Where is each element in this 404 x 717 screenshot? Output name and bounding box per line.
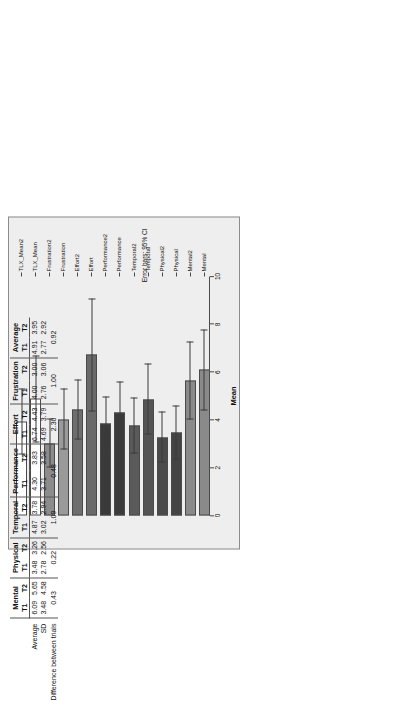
category-label-wrapper: Physical2 — [157, 213, 168, 271]
value-sd-t1: 3.02 — [39, 517, 48, 537]
category-tick — [35, 272, 36, 276]
category-label: Physical2 — [157, 213, 168, 271]
value-tick: 2 — [210, 465, 222, 469]
category-label-wrapper: Performance2 — [100, 213, 111, 271]
category-label: Performance2 — [100, 213, 111, 271]
subheader-t1: T1 — [20, 470, 30, 496]
tick-label: 2 — [214, 465, 222, 469]
bar-row — [114, 276, 125, 515]
value-average-t2: 3.78 — [30, 497, 40, 517]
value-tick: 8 — [210, 322, 222, 326]
category-tick — [105, 272, 106, 276]
category-label-wrapper: Frustration — [58, 213, 69, 271]
category-label-wrapper: Performance — [114, 213, 125, 271]
value-sd-t2: 2.94 — [39, 497, 48, 517]
group-header-average: Average — [10, 317, 20, 357]
category-label-wrapper: TLX_Mean — [30, 213, 41, 271]
value-sd-t1: 2.77 — [39, 337, 48, 357]
bar-row — [86, 276, 97, 515]
value-average-t2: 5.65 — [30, 577, 40, 597]
group-header-frustration: Frustration — [10, 357, 20, 404]
bar-row — [171, 276, 182, 515]
value-tick: 10 — [210, 272, 222, 279]
bar-row — [185, 276, 196, 515]
error-bar — [148, 363, 149, 434]
category-label-wrapper: Frustration2 — [44, 213, 55, 271]
value-sd-t1: 2.78 — [39, 557, 48, 577]
subheader-t2: T2 — [20, 577, 30, 597]
category-tick — [204, 272, 205, 276]
value-average-t1: 6.09 — [30, 597, 40, 617]
value-average-t1: 3.48 — [30, 557, 40, 577]
value-sd-t2: 4.58 — [39, 577, 48, 597]
category-tick — [119, 272, 120, 276]
subheader-t2: T2 — [20, 497, 30, 517]
value-sd-t1: 4.69 — [39, 424, 48, 444]
category-label-wrapper: Mental2 — [185, 213, 196, 271]
subheader-t2: T2 — [20, 357, 30, 380]
group-header-physical: Physical — [10, 537, 20, 577]
table-corner-cell — [10, 618, 20, 703]
value-sd-t2: 2.92 — [39, 317, 48, 337]
value-average-t2: 3.83 — [30, 444, 40, 470]
error-bar — [162, 411, 163, 462]
row-label-average: Average — [30, 618, 40, 703]
table-subheader-row: T1T2T1T2T1T2T1T2T1T2T1T2T1T2 — [20, 317, 30, 703]
tick-label: 10 — [214, 272, 222, 279]
row-label-difference: Difference between trials — [48, 618, 58, 703]
category-axis-labels: TLX_Mean2TLX_MeanFrustration2Frustration… — [16, 213, 210, 271]
subheader-t2: T2 — [20, 444, 30, 470]
category-label: Frustration2 — [44, 213, 55, 271]
value-tick: 0 — [210, 513, 222, 517]
category-label: TLX_Mean2 — [16, 213, 27, 271]
value-axis-ticks: 0246810 — [210, 276, 226, 515]
bar-row — [157, 276, 168, 515]
bar-row — [143, 276, 154, 515]
value-sd-t2: 3.79 — [39, 404, 48, 424]
tick-label: 6 — [214, 370, 222, 374]
category-label: Physical — [171, 213, 182, 271]
value-sd-t2: 3.58 — [39, 444, 48, 470]
bar-row — [129, 276, 140, 515]
subheader-t1: T1 — [20, 337, 30, 357]
group-header-performance: Performance — [10, 444, 20, 497]
category-label: Mental2 — [185, 213, 196, 271]
category-label: Performance — [114, 213, 125, 271]
table-row: Average6.095.653.483.264.873.784.303.836… — [30, 317, 40, 703]
category-label: TLX_Mean — [30, 213, 41, 271]
error-bar — [176, 405, 177, 459]
value-average-t1: 4.30 — [30, 470, 40, 496]
category-label-wrapper: Physical — [171, 213, 182, 271]
value-average-t1: 4.87 — [30, 517, 40, 537]
subheader-t2: T2 — [20, 404, 30, 424]
category-tick — [190, 272, 191, 276]
value-average-t2: 3.26 — [30, 537, 40, 557]
category-tick — [134, 272, 135, 276]
table-corner-cell — [20, 618, 30, 703]
bar-row — [58, 276, 69, 515]
group-header-temporal: Temporal — [10, 497, 20, 537]
group-header-effort: Effort — [10, 404, 20, 444]
error-bar — [204, 329, 205, 410]
value-average-t1: 4.91 — [30, 337, 40, 357]
value-sd-t1: 3.48 — [39, 597, 48, 617]
error-bar-note: Error bars: 95% CI — [141, 228, 148, 282]
category-label-wrapper: Temporal2 — [129, 213, 140, 271]
category-tick — [91, 272, 92, 276]
category-label-wrapper: TLX_Mean2 — [16, 213, 27, 271]
category-tick — [162, 272, 163, 276]
value-difference: 2.30 — [48, 404, 58, 444]
tick-label: 4 — [214, 418, 222, 422]
subheader-t1: T1 — [20, 424, 30, 444]
category-label: Effort — [86, 213, 97, 271]
category-tick — [63, 272, 64, 276]
statistics-table: MentalPhysicalTemporalPerformanceEffortF… — [10, 317, 58, 703]
value-difference: 0.22 — [48, 537, 58, 577]
value-axis-title: Mean — [229, 276, 238, 515]
error-bar — [77, 379, 78, 439]
subheader-t2: T2 — [20, 537, 30, 557]
category-label: Frustration — [58, 213, 69, 271]
table-row: SD3.484.582.782.563.022.943.713.584.693.… — [39, 317, 48, 703]
tick-label: 8 — [214, 322, 222, 326]
value-average-t2: 3.95 — [30, 317, 40, 337]
